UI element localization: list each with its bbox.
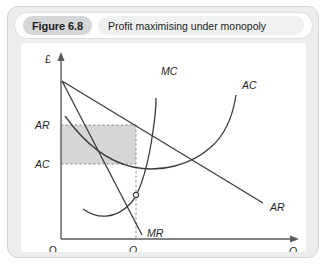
figure-title: Profit maximising under monopoly	[98, 16, 304, 35]
figure-panel: Figure 6.8 Profit maximising under monop…	[7, 6, 319, 258]
mr-curve-label: MR	[147, 227, 164, 239]
x-axis-label: Q	[289, 245, 297, 252]
x-tick-label-qm: Q	[129, 244, 137, 252]
mc-curve-label: MC	[161, 65, 178, 77]
x-axis-arrowhead	[290, 235, 299, 242]
chart-area: £ Q O AR AC Q m MC AC AR MR	[21, 43, 306, 252]
y-tick-label-ac: AC	[34, 158, 50, 170]
monopoly-diagram-svg: £ Q O AR AC Q m MC AC AR MR	[21, 43, 306, 252]
origin-label: O	[49, 245, 57, 252]
ar-curve-label: AR	[269, 201, 285, 213]
figure-title-bar: Figure 6.8 Profit maximising under monop…	[14, 12, 313, 39]
figure-number-badge: Figure 6.8	[23, 16, 92, 35]
x-tick-label-qm-subscript: m	[137, 250, 143, 252]
supernormal-profit-rectangle	[61, 125, 136, 164]
profit-max-point	[133, 192, 138, 197]
y-tick-label-ar: AR	[34, 119, 50, 131]
y-axis-arrowhead	[57, 52, 64, 61]
ac-curve-label: AC	[241, 79, 257, 91]
y-axis-label: £	[45, 54, 51, 65]
